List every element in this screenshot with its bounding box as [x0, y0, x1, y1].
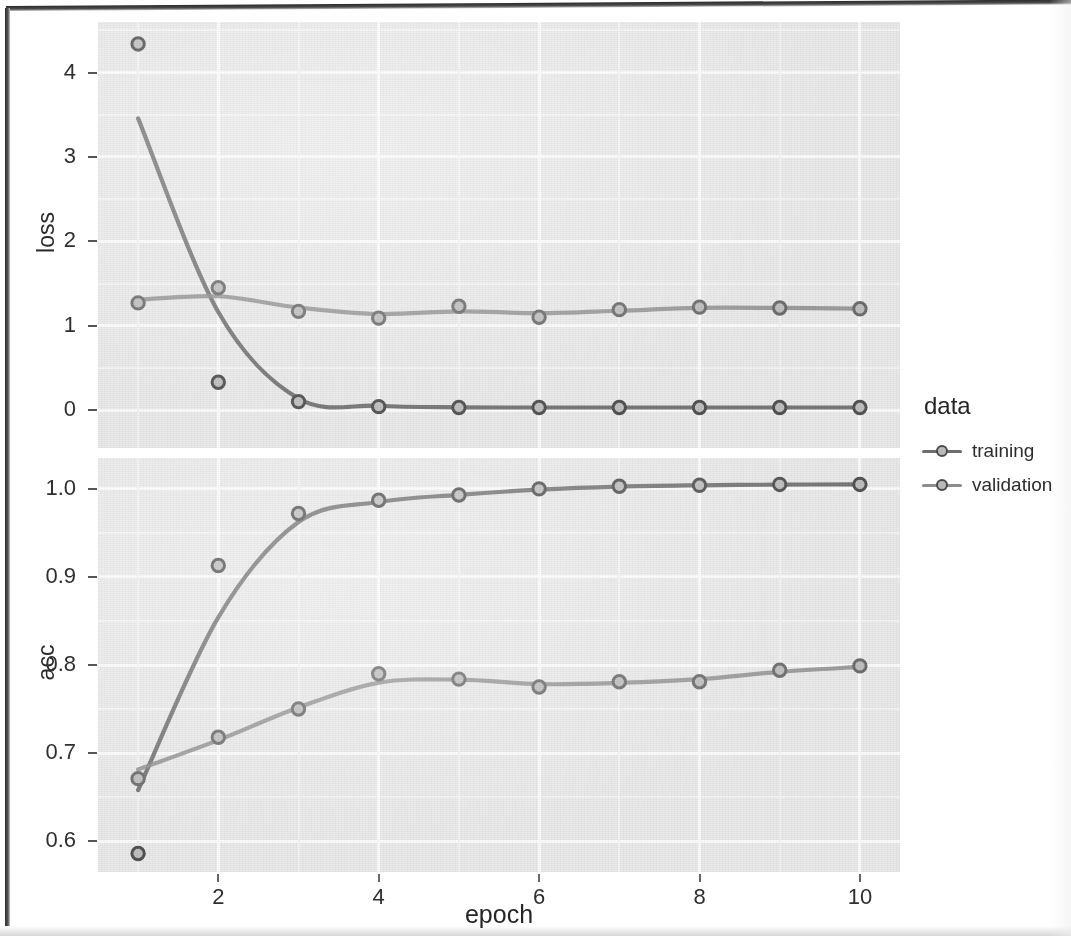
legend-point-icon	[936, 479, 948, 491]
data-point	[693, 479, 705, 491]
legend-item-label: validation	[972, 474, 1052, 496]
legend-item-label: training	[972, 440, 1034, 462]
data-point	[453, 401, 465, 413]
legend: data trainingvalidation	[922, 392, 1067, 502]
y-tick-mark	[88, 325, 97, 327]
data-point	[453, 300, 465, 312]
data-point	[613, 303, 625, 315]
x-tick-mark	[378, 874, 380, 882]
data-point	[212, 282, 224, 294]
legend-item-training[interactable]: training	[922, 434, 1067, 468]
data-point	[373, 400, 385, 412]
series-layer-acc	[98, 458, 900, 872]
legend-items: trainingvalidation	[922, 434, 1067, 502]
legend-item-validation[interactable]: validation	[922, 468, 1067, 502]
training-history-chart: loss 01234 acc 0.60.70.80.91.0 246810 ep…	[0, 0, 1071, 936]
data-point	[533, 401, 545, 413]
data-point	[373, 312, 385, 324]
data-point	[212, 376, 224, 388]
data-point	[533, 311, 545, 323]
trend-line-training	[138, 118, 860, 407]
data-point	[774, 478, 786, 490]
data-point	[292, 305, 304, 317]
data-point	[774, 664, 786, 676]
y-tick-mark	[88, 576, 97, 578]
data-point	[453, 673, 465, 685]
data-point	[373, 494, 385, 506]
data-point	[854, 401, 866, 413]
data-point	[132, 38, 144, 50]
data-point	[132, 772, 144, 784]
legend-point-icon	[936, 445, 948, 457]
y-tick-label: 2	[0, 227, 76, 253]
data-point	[613, 676, 625, 688]
panel-loss	[98, 22, 900, 448]
y-tick-mark	[88, 409, 97, 411]
y-tick-label: 1.0	[0, 475, 76, 501]
legend-title: data	[922, 392, 1067, 420]
legend-key-icon	[922, 438, 962, 464]
y-tick-label: 0.8	[0, 651, 76, 677]
data-point	[292, 395, 304, 407]
data-point	[212, 559, 224, 571]
y-tick-label: 3	[0, 143, 76, 169]
y-tick-label: 0	[0, 396, 76, 422]
trend-line-training	[138, 484, 860, 790]
x-axis-title: epoch	[98, 900, 900, 929]
data-point	[613, 480, 625, 492]
data-point	[292, 507, 304, 519]
data-point	[453, 489, 465, 501]
data-point	[854, 478, 866, 490]
x-tick-mark	[217, 874, 219, 882]
y-tick-mark	[88, 840, 97, 842]
y-tick-label: 1	[0, 312, 76, 338]
data-point	[693, 676, 705, 688]
data-point	[132, 297, 144, 309]
x-tick-mark	[859, 874, 861, 882]
data-point	[533, 483, 545, 495]
data-point	[774, 302, 786, 314]
y-tick-mark	[88, 664, 97, 666]
data-point	[533, 681, 545, 693]
data-point	[132, 847, 144, 859]
legend-key-icon	[922, 472, 962, 498]
y-tick-mark	[88, 156, 97, 158]
y-tick-mark	[88, 752, 97, 754]
y-tick-mark	[88, 72, 97, 74]
y-tick-label: 0.9	[0, 563, 76, 589]
data-point	[613, 401, 625, 413]
data-point	[774, 401, 786, 413]
y-tick-label: 0.7	[0, 739, 76, 765]
y-tick-mark	[88, 240, 97, 242]
series-layer-loss	[98, 22, 900, 448]
data-point	[693, 301, 705, 313]
data-point	[693, 401, 705, 413]
y-tick-label: 4	[0, 59, 76, 85]
data-point	[854, 660, 866, 672]
y-tick-label: 0.6	[0, 827, 76, 853]
trend-line-validation	[138, 667, 860, 770]
trend-line-validation	[138, 296, 860, 314]
x-tick-mark	[699, 874, 701, 882]
data-point	[292, 703, 304, 715]
data-point	[212, 731, 224, 743]
panel-acc	[98, 458, 900, 872]
x-tick-mark	[538, 874, 540, 882]
data-point	[854, 303, 866, 315]
data-point	[373, 668, 385, 680]
y-tick-mark	[88, 488, 97, 490]
